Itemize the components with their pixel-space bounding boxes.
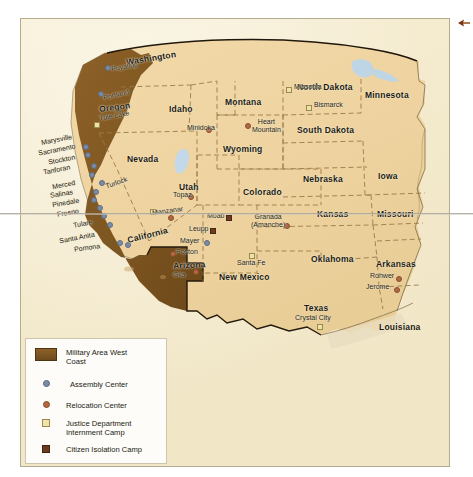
- print-fleck: [160, 275, 166, 279]
- left-arrow-icon: [458, 19, 470, 27]
- legend-label-military-area: Military Area West Coast: [66, 348, 127, 367]
- justice-camp-square-icon: [26, 419, 66, 427]
- legend-item-citizen-isolation-camp: Citizen Isolation Camp: [26, 445, 166, 454]
- scanner-horizontal-line-shadow: [0, 214, 473, 215]
- legend-label-assembly-center: Assembly Center: [66, 380, 128, 389]
- legend-label-relocation-center: Relocation Center: [66, 401, 127, 410]
- screenshot-canvas: Washington Oregon California Nevada Idah…: [0, 0, 473, 477]
- relocation-center-dot-icon: [26, 401, 66, 408]
- legend-label-justice-camp: Justice Department Internment Camp: [66, 419, 131, 438]
- map-legend: Military Area West Coast Assembly Center…: [25, 338, 167, 464]
- print-fleck: [124, 267, 134, 272]
- legend-item-relocation-center: Relocation Center: [26, 401, 166, 410]
- military-area-swatch-icon: [26, 348, 66, 361]
- assembly-center-dot-icon: [26, 380, 66, 387]
- legend-item-military-area: Military Area West Coast: [26, 348, 166, 367]
- legend-label-citizen-isolation-camp: Citizen Isolation Camp: [66, 445, 142, 454]
- legend-item-justice-camp: Justice Department Internment Camp: [26, 419, 166, 438]
- legend-item-assembly-center: Assembly Center: [26, 380, 166, 389]
- citizen-isolation-square-icon: [26, 445, 66, 453]
